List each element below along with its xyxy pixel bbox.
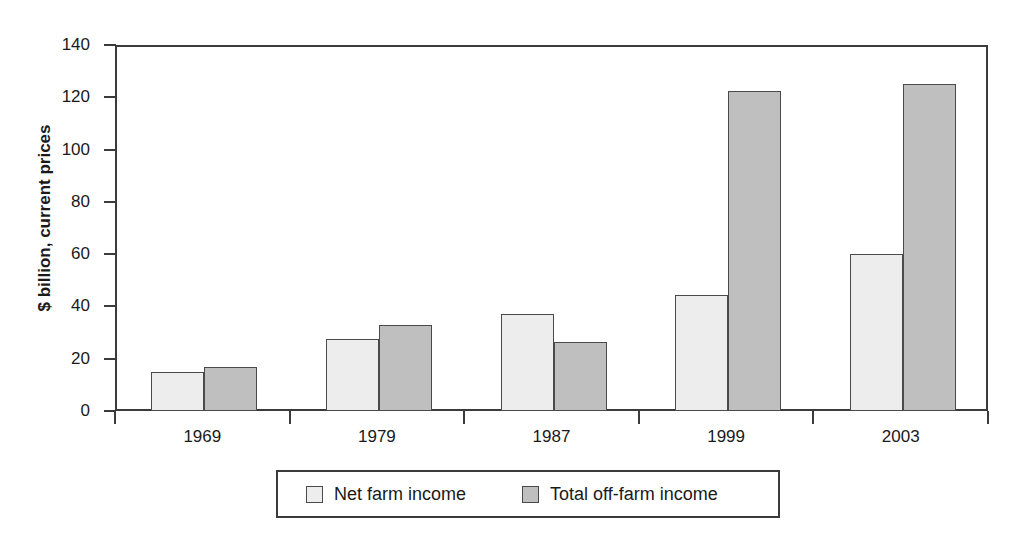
x-axis-tick xyxy=(289,411,291,424)
y-axis-tick-label: 20 xyxy=(28,350,90,367)
x-axis-tick xyxy=(463,411,465,424)
legend-label: Total off-farm income xyxy=(550,485,718,503)
legend-label: Net farm income xyxy=(334,485,466,503)
x-axis-tick xyxy=(638,411,640,424)
x-axis-category-label: 1987 xyxy=(464,428,639,445)
bar-1979-net-farm-income xyxy=(326,339,379,411)
bar-1999-net-farm-income xyxy=(675,295,728,411)
y-axis-tick-label: 60 xyxy=(28,245,90,262)
bar-1999-total-off-farm-income xyxy=(728,91,781,411)
chart-legend: Net farm incomeTotal off-farm income xyxy=(276,470,780,518)
bar-1979-total-off-farm-income xyxy=(379,325,432,411)
bar-1987-total-off-farm-income xyxy=(554,342,607,411)
bar-2003-net-farm-income xyxy=(850,254,903,411)
x-axis-category-label: 2003 xyxy=(813,428,988,445)
bar-1987-net-farm-income xyxy=(501,314,554,411)
bar-chart-figure: $ billion, current prices 02040608010012… xyxy=(0,0,1014,545)
plot-area xyxy=(115,45,988,411)
x-axis-tick xyxy=(114,411,116,424)
y-axis-title: $ billion, current prices xyxy=(35,68,55,368)
legend-swatch-icon xyxy=(522,486,539,503)
x-axis-category-label: 1969 xyxy=(115,428,290,445)
legend-item-list: Net farm incomeTotal off-farm income xyxy=(278,472,778,516)
x-axis-tick xyxy=(987,411,989,424)
y-axis-tick-label: 80 xyxy=(28,193,90,210)
x-axis-category-label: 1999 xyxy=(639,428,814,445)
bar-2003-total-off-farm-income xyxy=(903,84,956,411)
x-axis-category-label: 1979 xyxy=(289,428,464,445)
y-axis-tick-label: 100 xyxy=(28,141,90,158)
x-axis-tick xyxy=(812,411,814,424)
y-axis-tick-label: 0 xyxy=(28,402,90,419)
legend-item: Net farm income xyxy=(306,485,466,503)
bar-1969-net-farm-income xyxy=(151,372,204,411)
legend-swatch-icon xyxy=(306,486,323,503)
y-axis-tick-label: 140 xyxy=(28,36,90,53)
y-axis-tick-label: 40 xyxy=(28,297,90,314)
y-axis-tick-label: 120 xyxy=(28,88,90,105)
legend-item: Total off-farm income xyxy=(522,485,718,503)
bar-1969-total-off-farm-income xyxy=(204,367,257,411)
